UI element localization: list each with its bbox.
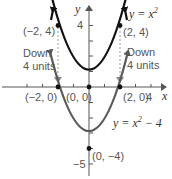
down-label-right-line2: 4 units [127,59,160,71]
label-point-0-neg4: (0, −4) [92,150,124,162]
equation-y-x2: y = x2 [128,6,158,21]
label-point-2-0: (2, 0) [123,91,149,103]
graph-canvas: y x 4 −5 4 (−2, 4) (2, 4) (−2, 0) (0, 0)… [0,0,172,179]
point-0-neg4 [87,146,92,151]
label-point-neg2-4: (−2, 4) [23,25,55,37]
label-point-2-4: (2, 4) [123,26,149,38]
point-2-4 [118,23,123,28]
tick-label-y4: 4 [77,19,83,31]
down-label-left-line1: Down [23,47,51,59]
equation-y-x2-minus-4: y = x2 − 4 [112,115,162,130]
down-label-right-line1: Down [127,46,155,58]
point-neg2-0 [56,85,61,90]
x-axis-label: x [161,89,168,103]
tick-label-y-neg5: −5 [73,158,86,170]
label-point-0-0: (0, 0) [66,91,92,103]
label-point-neg2-0: (−2, 0) [25,91,57,103]
point-2-0 [118,85,123,90]
point-0-0 [87,85,92,90]
point-neg2-4 [56,23,61,28]
x-axis [2,84,166,87]
y-axis-label: y [74,2,81,16]
down-label-left-line2: 4 units [23,60,56,72]
